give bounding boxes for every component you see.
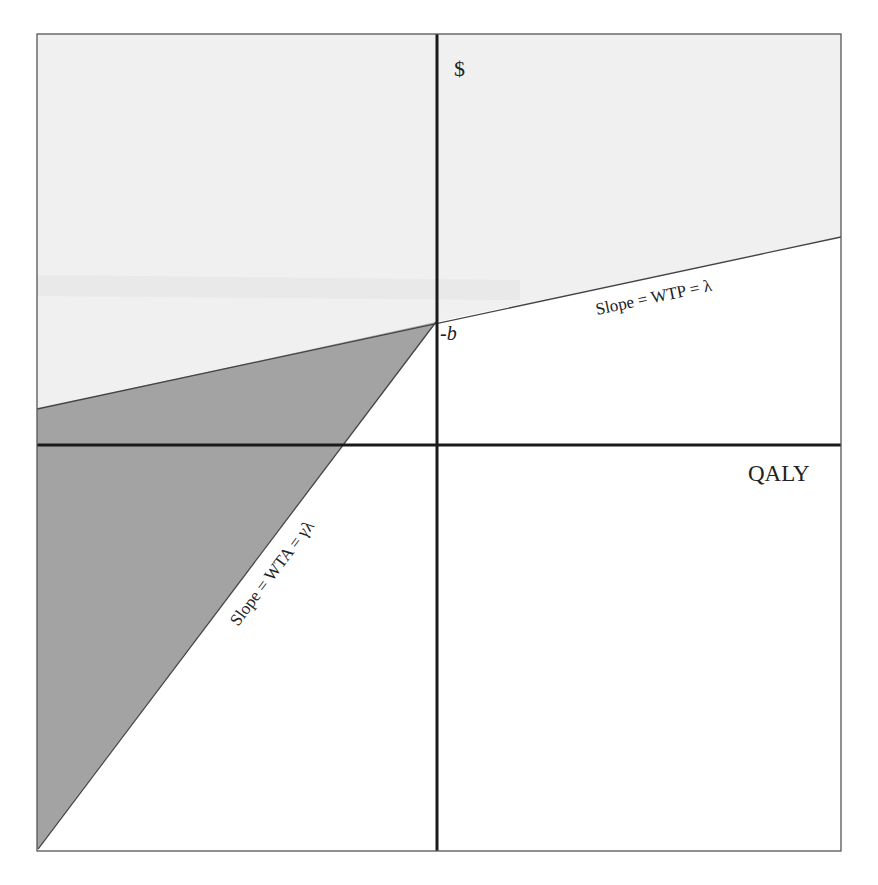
intercept-label: -b [440, 322, 457, 344]
y-axis-label: $ [454, 56, 465, 81]
x-axis-label: QALY [748, 461, 810, 486]
cost-effectiveness-diagram: $ QALY -b Slope = WTP = λ Slope = WTA = … [0, 0, 878, 885]
